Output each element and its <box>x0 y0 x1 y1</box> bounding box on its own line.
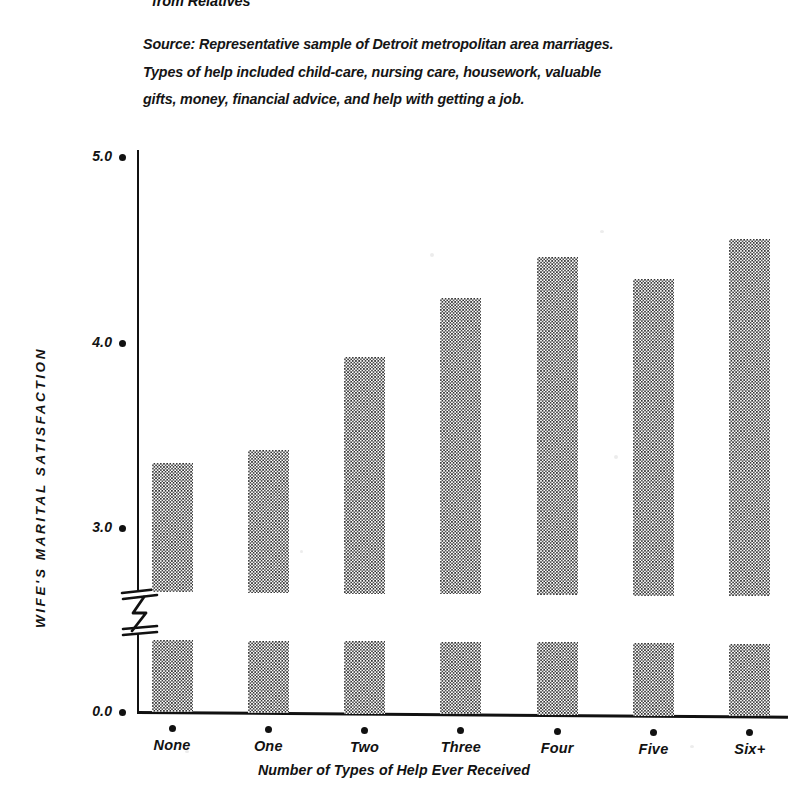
y-tick-dot <box>119 709 126 716</box>
scan-speckle <box>614 455 618 459</box>
x-tick-label-one: One <box>213 738 323 754</box>
bar-six-plus <box>729 239 770 597</box>
scan-speckle <box>430 253 434 257</box>
x-tick-dot <box>169 725 176 732</box>
x-tick-dot <box>554 728 561 735</box>
bar-stub-four <box>537 642 578 715</box>
bar-stub-three <box>440 642 481 714</box>
bar-two <box>344 357 385 593</box>
x-tick-dot <box>650 729 657 736</box>
scan-speckle <box>300 550 303 553</box>
bar-four <box>537 257 578 595</box>
x-tick-label-six-plus: Six+ <box>695 741 788 757</box>
bar-stub-six-plus <box>729 644 770 717</box>
x-tick-label-five: Five <box>599 741 709 757</box>
y-axis-line-lower <box>137 634 139 713</box>
scan-speckle <box>690 745 694 748</box>
bar-stub-two <box>344 641 385 713</box>
bar-none <box>152 463 193 592</box>
bar-stub-five <box>633 643 674 716</box>
y-tick-label: 3.0 <box>32 519 112 535</box>
x-tick-label-none: None <box>117 737 227 753</box>
x-tick-dot <box>361 727 368 734</box>
y-axis-line-upper <box>137 150 139 592</box>
y-tick-dot <box>119 340 126 347</box>
y-tick-label: 5.0 <box>32 148 112 164</box>
x-tick-dot <box>746 729 753 736</box>
scan-speckle <box>185 750 189 753</box>
y-tick-dot <box>119 154 126 161</box>
x-tick-label-two: Two <box>310 739 420 755</box>
x-tick-label-three: Three <box>406 739 516 755</box>
plot-area: 5.04.03.00.0 NoneOneTwoThreeFourFiveSix+ <box>0 0 788 787</box>
bar-five <box>633 279 674 595</box>
x-tick-dot <box>457 727 464 734</box>
y-tick-label: 0.0 <box>32 703 112 719</box>
bar-stub-one <box>248 641 289 713</box>
scan-speckle <box>600 230 604 233</box>
bar-three <box>440 298 481 594</box>
y-tick-dot <box>119 525 126 532</box>
bar-one <box>248 450 289 593</box>
x-tick-label-four: Four <box>502 740 612 756</box>
x-tick-dot <box>265 726 272 733</box>
x-axis-title: Number of Types of Help Ever Received <box>0 762 788 778</box>
chart-figure: from Relatives Source: Representative sa… <box>0 0 788 787</box>
y-tick-label: 4.0 <box>32 334 112 350</box>
bar-stub-none <box>152 640 193 712</box>
